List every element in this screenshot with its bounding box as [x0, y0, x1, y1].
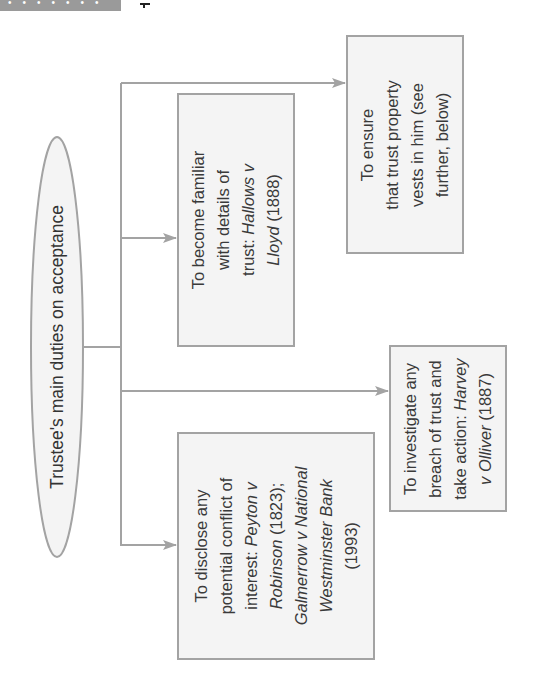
root-label: Trustee's main duties on acceptance	[47, 205, 68, 489]
duty-text: To ensure that trust property vests in h…	[355, 80, 455, 209]
duty-text: To disclose any potential conflict of in…	[189, 467, 364, 626]
duty-box-investigate-breach: To investigate any breach of trust and t…	[389, 345, 507, 512]
case-name: Harvey	[451, 358, 469, 410]
case-name: Hallows v	[239, 164, 257, 235]
case-name: Galmerrow v National	[292, 467, 310, 626]
duty-box-disclose-conflict: To disclose any potential conflict of in…	[177, 432, 375, 660]
case-name: Westminster Bank	[317, 479, 335, 613]
case-name: Peyton v	[242, 482, 260, 546]
duty-text: To become familiar with details of trust…	[186, 151, 286, 289]
case-name: v Olliver	[476, 425, 494, 485]
duty-text: To investigate any breach of trust and t…	[398, 358, 498, 499]
duty-box-become-familiar: To become familiar with details of trust…	[177, 93, 295, 347]
case-name: Lloyd	[264, 226, 282, 265]
duty-box-ensure-vesting: To ensure that trust property vests in h…	[346, 35, 464, 254]
case-name: Robinson	[267, 540, 285, 610]
